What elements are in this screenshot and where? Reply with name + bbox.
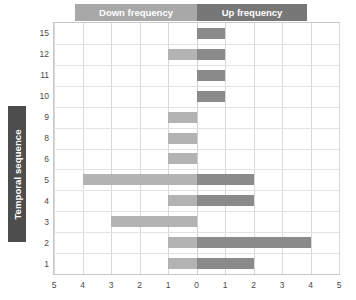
y-tick-label: 9: [33, 112, 49, 122]
x-tick-label: 4: [80, 280, 85, 290]
frequency-diverging-bar-chart: Temporal sequence Down frequency Up freq…: [0, 0, 356, 300]
y-tick-label: 15: [33, 28, 49, 38]
y-tick-label: 1: [33, 259, 49, 269]
y-tick-label: 2: [33, 238, 49, 248]
x-tick-label: 3: [280, 280, 285, 290]
y-gridline: [54, 65, 339, 66]
y-gridline: [54, 211, 339, 212]
y-gridline: [54, 232, 339, 233]
y-axis-title-block: Temporal sequence: [8, 106, 26, 242]
y-gridline: [54, 44, 339, 45]
legend-label-down-frequency: Down frequency: [99, 7, 173, 18]
y-axis-title-label: Temporal sequence: [12, 129, 23, 219]
y-tick-label: 4: [33, 196, 49, 206]
x-tick-label: 3: [109, 280, 114, 290]
plot-area: [53, 22, 340, 275]
legend-band-up-frequency: Up frequency: [197, 4, 307, 21]
legend-label-up-frequency: Up frequency: [222, 7, 283, 18]
y-gridline: [54, 253, 339, 254]
bar-down-frequency: [168, 195, 197, 206]
legend-band-down-frequency: Down frequency: [75, 4, 197, 21]
bar-up-frequency: [197, 91, 226, 102]
bar-up-frequency: [197, 258, 254, 269]
y-axis-tick-labels: 1512111098654321: [31, 22, 49, 275]
bar-down-frequency: [168, 112, 197, 123]
bar-up-frequency: [197, 28, 226, 39]
y-tick-label: 12: [33, 49, 49, 59]
bar-down-frequency: [168, 153, 197, 164]
bar-up-frequency: [197, 70, 226, 81]
y-tick-label: 3: [33, 217, 49, 227]
bar-up-frequency: [197, 195, 254, 206]
y-gridline: [54, 149, 339, 150]
y-gridline: [54, 128, 339, 129]
y-tick-label: 5: [33, 175, 49, 185]
bar-down-frequency: [168, 237, 197, 248]
bar-up-frequency: [197, 49, 226, 60]
y-tick-label: 10: [33, 91, 49, 101]
x-gridline: [339, 23, 340, 274]
x-tick-label: 1: [166, 280, 171, 290]
y-gridline: [54, 107, 339, 108]
x-tick-label: 1: [223, 280, 228, 290]
x-tick-label: 0: [194, 280, 199, 290]
x-tick-label: 2: [251, 280, 256, 290]
x-tick-label: 5: [52, 280, 57, 290]
y-gridline: [54, 190, 339, 191]
y-tick-label: 8: [33, 133, 49, 143]
bar-up-frequency: [197, 237, 311, 248]
y-tick-label: 6: [33, 154, 49, 164]
x-axis-tick-labels: 54321012345: [53, 280, 340, 294]
y-tick-label: 11: [33, 70, 49, 80]
y-gridline: [54, 169, 339, 170]
x-tick-label: 4: [308, 280, 313, 290]
x-tick-label: 5: [337, 280, 342, 290]
y-gridline: [54, 86, 339, 87]
bar-up-frequency: [197, 174, 254, 185]
bar-down-frequency: [168, 49, 197, 60]
bar-down-frequency: [168, 133, 197, 144]
x-tick-label: 2: [137, 280, 142, 290]
bar-down-frequency: [83, 174, 197, 185]
bar-down-frequency: [111, 216, 197, 227]
bar-down-frequency: [168, 258, 197, 269]
